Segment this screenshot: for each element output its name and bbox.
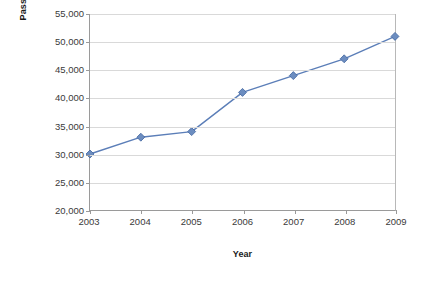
y-axis-tick-mark	[86, 155, 90, 156]
y-axis-tick-label: 40,000	[38, 93, 84, 103]
y-axis-tick-mark	[86, 14, 90, 15]
x-axis-tick-mark	[396, 210, 397, 214]
x-axis-tick-mark	[244, 210, 245, 214]
x-axis-tick-mark	[90, 210, 91, 214]
gridline	[90, 70, 395, 71]
y-axis-tick-label: 25,000	[38, 178, 84, 188]
y-axis-tick-labels: 20,00025,00030,00035,00040,00045,00050,0…	[38, 14, 84, 211]
y-axis-tick-label: 35,000	[38, 122, 84, 132]
y-axis-tick-label: 45,000	[38, 65, 84, 75]
y-axis-tick-label: 50,000	[38, 37, 84, 47]
gridline	[90, 14, 395, 15]
x-axis-tick-mark	[346, 210, 347, 214]
x-axis-tick-mark	[141, 210, 142, 214]
y-axis-tick-label: 30,000	[38, 150, 84, 160]
y-axis-tick-label: 55,000	[38, 9, 84, 19]
x-axis-title: Year	[89, 249, 396, 259]
x-axis-tick-labels: 2003200420052006200720082009	[89, 216, 396, 232]
gridline	[90, 155, 395, 156]
data-point-marker	[86, 150, 94, 158]
y-axis-tick-mark	[86, 98, 90, 99]
x-axis-tick-mark	[192, 210, 193, 214]
line-chart: Passengers per day 20,00025,00030,00035,…	[0, 0, 430, 283]
x-axis-tick-label: 2009	[366, 216, 426, 227]
plot-area	[89, 14, 396, 211]
gridline	[90, 183, 395, 184]
data-point-marker	[137, 133, 145, 141]
data-point-marker	[391, 32, 399, 40]
y-axis-tick-label: 20,000	[38, 206, 84, 216]
y-axis-tick-mark	[86, 70, 90, 71]
y-axis-tick-mark	[86, 42, 90, 43]
gridline	[90, 127, 395, 128]
x-axis-tick-mark	[295, 210, 296, 214]
series-passengers-per-day	[90, 14, 395, 210]
y-axis-tick-mark	[86, 127, 90, 128]
gridline	[90, 42, 395, 43]
gridline	[90, 98, 395, 99]
y-axis-title: Passengers per day	[18, 0, 32, 52]
y-axis-tick-mark	[86, 183, 90, 184]
data-point-marker	[289, 72, 297, 80]
data-point-marker	[340, 55, 348, 63]
